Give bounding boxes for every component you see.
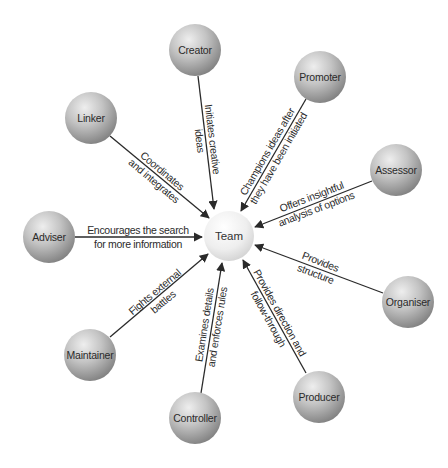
node-linker: Linker	[65, 92, 117, 144]
edge-label-creator-line2: ideas	[193, 128, 208, 153]
edge-label-adviser-line2: for more information	[94, 238, 182, 250]
edge-creator: Initiates creative ideas	[190, 76, 223, 209]
node-label-team: Team	[215, 230, 243, 242]
edge-assessor: Offers insightful analysis of options	[255, 176, 372, 228]
node-maintainer: Maintainer	[64, 329, 116, 381]
node-label-producer: Producer	[298, 391, 340, 403]
edge-maintainer: Fights external battles	[110, 254, 208, 337]
node-label-controller: Controller	[173, 412, 217, 424]
node-promoter: Promoter	[294, 51, 346, 103]
node-producer: Producer	[293, 371, 345, 423]
edge-adviser: Encourages the search for more informati…	[75, 224, 202, 250]
node-label-maintainer: Maintainer	[66, 349, 114, 361]
node-controller: Controller	[169, 392, 221, 444]
node-label-assessor: Assessor	[375, 164, 417, 176]
node-team-hub: Team	[204, 211, 254, 261]
node-label-creator: Creator	[178, 44, 212, 56]
edge-producer: Provides direction and follow-through	[240, 260, 309, 373]
edge-organiser: Provides structure	[255, 245, 383, 293]
node-assessor: Assessor	[370, 144, 422, 196]
edge-label-adviser-line1: Encourages the search	[87, 224, 189, 236]
node-label-organiser: Organiser	[386, 296, 431, 308]
node-label-adviser: Adviser	[32, 231, 66, 243]
node-label-linker: Linker	[77, 112, 105, 124]
edge-linker: Coordinates and integrates	[110, 136, 209, 218]
node-creator: Creator	[169, 24, 221, 76]
node-label-promoter: Promoter	[299, 71, 341, 83]
edge-controller: Examines details and enforces rules	[192, 263, 229, 393]
node-adviser: Adviser	[23, 211, 75, 263]
node-organiser: Organiser	[382, 276, 434, 328]
team-roles-diagram: Initiates creative ideas Champions ideas…	[0, 0, 448, 468]
